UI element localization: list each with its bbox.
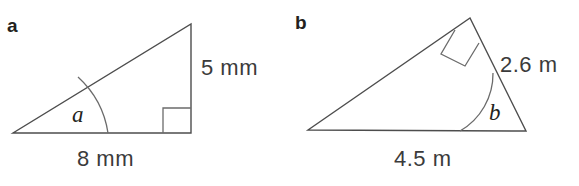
triangle-a-group — [13, 24, 191, 133]
dimension-label-a-vertical: 5 mm — [201, 57, 258, 79]
geometry-figure: a b 5 mm 8 mm a 2.6 m 4.5 m b — [0, 0, 579, 186]
dimension-label-a-horizontal: 8 mm — [77, 148, 134, 170]
angle-label-b: b — [489, 101, 501, 124]
right-angle-marker-b — [441, 30, 479, 66]
dimension-label-b-horizontal: 4.5 m — [394, 148, 452, 170]
panel-letter-b: b — [295, 13, 307, 32]
panel-letter-a: a — [7, 16, 18, 35]
dimension-label-b-slant: 2.6 m — [500, 54, 558, 76]
angle-label-a: a — [72, 103, 84, 126]
right-angle-marker-a — [163, 108, 191, 133]
triangle-a-outline — [13, 24, 191, 133]
